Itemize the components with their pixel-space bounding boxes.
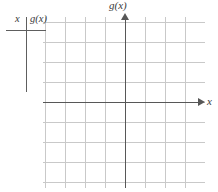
y-axis-label: g(x) [109, 0, 127, 11]
table-header-x: x [15, 13, 20, 24]
table-header-gx: g(x) [30, 13, 47, 24]
table-column-divider [26, 17, 27, 92]
x-axis-label: x [207, 95, 212, 107]
table-header-row: x g(x) [6, 12, 58, 29]
y-axis-arrow-icon [121, 13, 129, 20]
figure-container: x g(x) x g(x) [0, 0, 218, 192]
x-axis-arrow-icon [198, 98, 205, 106]
function-value-table: x g(x) [6, 12, 58, 94]
x-axis-line [43, 102, 200, 104]
y-axis-line [125, 19, 127, 188]
